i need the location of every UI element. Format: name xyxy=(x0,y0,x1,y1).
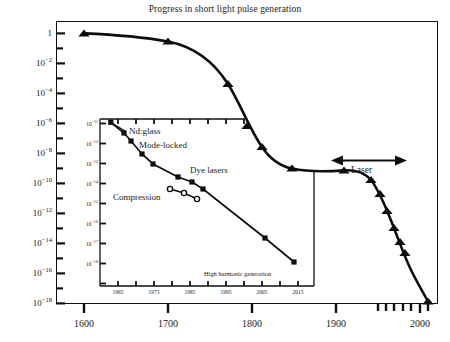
main-curve-markers xyxy=(78,29,433,304)
y-tick-label: 10−10 xyxy=(0,178,52,188)
high-harmonic-generation-label: High harmonic generation xyxy=(204,270,271,277)
nd-glass-label: Nd:glass xyxy=(129,126,161,136)
inset-top-ticks xyxy=(118,119,244,124)
y-tick-label: 10−16 xyxy=(0,268,52,278)
y-tick-label: 10−12 xyxy=(0,208,52,218)
inset-x-tick-label: 1965 xyxy=(113,289,124,295)
main-curve xyxy=(84,33,428,301)
x-tick-label: 1700 xyxy=(158,318,178,329)
inset-x-tick-label: 1985 xyxy=(185,289,196,295)
inset-y-tick-label: 10−13 xyxy=(74,161,98,167)
x-tick-label: 1900 xyxy=(326,318,346,329)
y-tick-label: 10−18 xyxy=(0,298,52,308)
y-tick-label: 10−4 xyxy=(0,88,52,98)
inset-y-tick-label: 10−17 xyxy=(74,241,98,247)
y-tick-label: 10−2 xyxy=(0,58,52,68)
laser-era-label: Laser xyxy=(351,165,372,175)
y-tick-label: 10−14 xyxy=(0,238,52,248)
mode-locked-label: Mode-locked xyxy=(139,140,187,150)
x-tick-label: 1600 xyxy=(74,318,94,329)
inset-y-tick-label: 10−11 xyxy=(74,121,98,127)
inset-y-tick-label: 10−18 xyxy=(74,261,98,267)
x-tick-label: 1800 xyxy=(242,318,262,329)
x-tick-label: 2000 xyxy=(410,318,430,329)
inset-group xyxy=(100,119,314,286)
inset-x-tick-label: 1995 xyxy=(221,289,232,295)
inset-x-tick-label: 1975 xyxy=(149,289,160,295)
inset-y-tick-label: 10−16 xyxy=(74,221,98,227)
inset-y-tick-label: 10−12 xyxy=(74,141,98,147)
y-tick-label: 1 xyxy=(0,28,52,38)
inset-x-tick-label: 2015 xyxy=(293,289,304,295)
inset-x-ticks xyxy=(118,281,298,286)
x-major-ticks xyxy=(84,304,420,313)
inset-x-tick-label: 2005 xyxy=(257,289,268,295)
chart-root: Progress in short light pulse generation xyxy=(0,0,450,342)
inset-y-tick-label: 10−15 xyxy=(74,201,98,207)
y-tick-label: 10−6 xyxy=(0,118,52,128)
inset-y-ticks xyxy=(100,124,106,284)
y-minor-ticks xyxy=(56,48,63,288)
compression-markers xyxy=(167,186,199,201)
compression-label: Compression xyxy=(113,192,161,202)
inset-y-tick-label: 10−14 xyxy=(74,181,98,187)
dye-lasers-label: Dye lasers xyxy=(190,165,228,175)
laser-annotation-arrow xyxy=(331,156,407,166)
y-tick-label: 10−8 xyxy=(0,148,52,158)
